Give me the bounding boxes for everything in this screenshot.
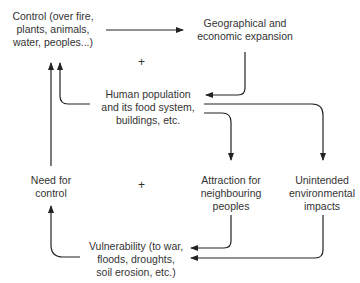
arrow-impacts-to-vulnerability bbox=[191, 215, 323, 258]
node-expansion: Geographical and economic expansion bbox=[190, 17, 300, 43]
arrow-expansion-to-population bbox=[206, 52, 245, 95]
loop-sign-reinforcing: + bbox=[138, 55, 145, 69]
node-attraction: Attraction for neighbouring peoples bbox=[190, 174, 272, 213]
arrow-attraction-to-vulnerability bbox=[191, 215, 231, 248]
node-vulnerability: Vulnerability (to war, floods, droughts,… bbox=[80, 240, 192, 279]
arrow-population-to-control bbox=[60, 63, 90, 104]
arrow-vulnerability-to-need bbox=[51, 206, 80, 257]
node-need-for-control: Need for control bbox=[18, 174, 84, 200]
loop-sign-balancing: + bbox=[138, 178, 145, 192]
node-population: Human population and its food system, bu… bbox=[92, 88, 204, 127]
node-control: Control (over fire, plants, animals, wat… bbox=[0, 10, 106, 49]
node-impacts: Unintended environmental impacts bbox=[280, 174, 360, 213]
arrow-population-to-attraction bbox=[204, 113, 231, 160]
